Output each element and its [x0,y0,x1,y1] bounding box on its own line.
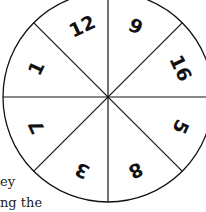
spinner-label-bottom-left: 3 [71,158,92,184]
spinner-label-bottom-right: 8 [125,158,146,184]
spinner-label-left-top: 1 [23,57,49,78]
caption-line-1: ey [0,175,15,188]
spinner-label-top-right: 9 [125,13,146,39]
caption-line-2: ng the [0,196,42,209]
spinner-label-right-bottom: 5 [168,116,194,137]
spinner-label-right-top: 16 [165,51,196,84]
spinner-label-top-left: 12 [65,10,98,41]
spinner-diagram: 1291658371 [0,0,206,212]
spinner-label-left-bottom: 7 [23,116,49,137]
